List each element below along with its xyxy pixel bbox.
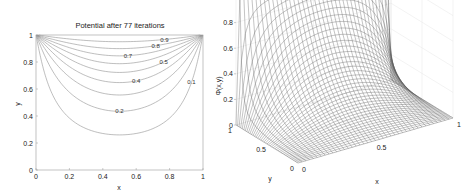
surface-y-label: y [268, 175, 272, 183]
x-tick-label: 0.5 [377, 144, 387, 151]
mesh-line [275, 0, 337, 152]
figure: Potential after 77 iterations 0.90.80.70… [0, 0, 463, 195]
z-tick-label: 0.6 [223, 45, 233, 52]
contour-line [38, 35, 201, 64]
contour-label: 0.7 [124, 53, 133, 59]
x-tick-label: 1 [201, 173, 205, 180]
surface-x-label: x [375, 178, 379, 185]
surface-ticks: 00.20.40.60.8100.5100.51 [223, 0, 461, 173]
contour-line [37, 35, 202, 83]
mesh-line [317, 0, 379, 139]
x-tick-label: 0.2 [65, 173, 75, 180]
y-tick-label: 0.4 [23, 113, 33, 120]
mesh-line [376, 0, 438, 123]
contour-line [38, 35, 200, 49]
contour-line [36, 35, 202, 135]
surface-mesh [236, 0, 453, 163]
contour-label: 0.9 [160, 37, 169, 43]
z-tick-label: 0.4 [223, 70, 233, 77]
contour-label: 0.8 [152, 43, 161, 49]
contour-line [39, 35, 200, 42]
y-tick-label: 0.6 [23, 86, 33, 93]
contour-line [38, 35, 202, 72]
x-tick-label: 0 [34, 173, 38, 180]
contour-line [37, 35, 202, 95]
z-tick-label: 1 [229, 0, 233, 1]
mesh-line [267, 86, 422, 144]
mesh-line [259, 0, 321, 156]
x-tick-label: 1 [457, 121, 461, 128]
mesh-line [368, 0, 430, 125]
mesh-line [242, 0, 397, 129]
y-tick-label: 1 [29, 32, 33, 39]
contour-lines [36, 35, 202, 135]
contour-label: 0.2 [115, 108, 124, 114]
mesh-line [252, 0, 314, 159]
z-tick-label: 0.8 [223, 19, 233, 26]
mesh-line [329, 0, 391, 136]
y-tick-label: 0.8 [23, 59, 33, 66]
mesh-line [352, 0, 414, 129]
mesh-line [387, 0, 449, 119]
surface-z-label: Φ(x,y) [215, 76, 223, 95]
contour-x-label: x [117, 184, 121, 191]
surface-plot: 00.20.40.60.8100.5100.51 Φ(x,y) y x [215, 0, 461, 185]
contour-label: 0.4 [132, 78, 141, 84]
mesh-line [272, 95, 427, 147]
contour-labels: 0.90.80.70.50.40.20.1 [115, 37, 196, 115]
y-tick-label: 0.5 [256, 146, 266, 153]
contour-label: 0.5 [159, 59, 168, 65]
x-tick-label: 0.8 [165, 173, 175, 180]
contour-y-label: y [14, 102, 22, 106]
mesh-line [244, 0, 306, 161]
contour-label: 0.1 [187, 79, 196, 85]
x-tick-label: 0.4 [98, 173, 108, 180]
mesh-line [252, 40, 407, 134]
y-tick-label: 1 [228, 127, 232, 134]
x-tick-label: 0.6 [131, 173, 141, 180]
y-tick-label: 0 [29, 167, 33, 174]
y-tick-label: 0 [290, 165, 294, 172]
x-tick-label: 0 [302, 166, 306, 173]
contour-title: Potential after 77 iterations [75, 21, 164, 30]
z-tick-label: 0.2 [223, 96, 233, 103]
contour-plot: Potential after 77 iterations 0.90.80.70… [14, 21, 205, 191]
contour-line [37, 35, 203, 111]
mesh-line [276, 103, 431, 150]
contour-axes-box [36, 35, 203, 170]
y-tick-label: 0.2 [23, 140, 33, 147]
mesh-line [333, 0, 395, 135]
mesh-line [302, 0, 364, 144]
mesh-line [325, 0, 387, 137]
